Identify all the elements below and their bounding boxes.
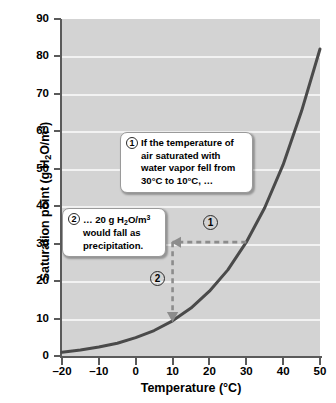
- x-axis-title: Temperature (°C): [62, 381, 320, 395]
- y-axis-tick-label: 50: [9, 163, 49, 175]
- callout-step-2-text: … 20 g H2O/m3 would fall as precipitatio…: [83, 213, 160, 252]
- y-axis-tick: [54, 18, 61, 20]
- gridline: [62, 94, 320, 96]
- step-marker-2: 2: [150, 271, 165, 286]
- y-axis-tick-label: 30: [9, 238, 49, 250]
- step-marker-1: 1: [203, 215, 218, 230]
- callout-step-1-badge: 1: [126, 137, 138, 150]
- callout-step-2-badge: 2: [68, 213, 80, 226]
- y-axis-tick-label: 90: [9, 13, 49, 25]
- callout-step-1-text: If the temperature of air saturated with…: [141, 137, 247, 188]
- y-axis-tick-label: 70: [9, 88, 49, 100]
- saturation-point-chart: Saturation point (g H2O/m3) 1 If the tem…: [0, 0, 336, 403]
- y-axis-tick-label: 60: [9, 125, 49, 137]
- x-axis-tick: [282, 358, 284, 365]
- y-axis-title-sub: 2: [43, 155, 53, 160]
- y-axis-tick: [54, 168, 61, 170]
- y-axis-tick-label: 20: [9, 275, 49, 287]
- callout-step-1: 1 If the temperature of air saturated wi…: [120, 132, 253, 193]
- x-axis-tick: [98, 358, 100, 365]
- y-axis-tick-label: 40: [9, 200, 49, 212]
- y-axis-tick: [54, 205, 61, 207]
- x-axis-tick: [61, 358, 63, 365]
- y-axis-line: [60, 19, 62, 358]
- gridline: [62, 319, 320, 321]
- y-axis-tick: [54, 243, 61, 245]
- x-axis-tick: [319, 358, 321, 365]
- x-axis-tick: [172, 358, 174, 365]
- y-axis-tick: [54, 355, 61, 357]
- y-axis-tick: [54, 318, 61, 320]
- y-axis-tick: [54, 93, 61, 95]
- y-axis-tick: [54, 130, 61, 132]
- y-axis-tick: [54, 55, 61, 57]
- x-axis-tick-label: 50: [298, 366, 336, 378]
- y-axis-tick-label: 10: [9, 313, 49, 325]
- y-axis-tick: [54, 280, 61, 282]
- x-axis-tick: [208, 358, 210, 365]
- x-axis-tick: [135, 358, 137, 365]
- y-axis-tick-label: 0: [9, 350, 49, 362]
- y-axis-tick-label: 80: [9, 50, 49, 62]
- y-axis-title-lead: Saturation point (g H: [38, 160, 52, 282]
- gridline: [62, 56, 320, 58]
- gridline: [62, 281, 320, 283]
- callout-step-2: 2 … 20 g H2O/m3 would fall as precipitat…: [62, 208, 166, 257]
- x-axis-tick: [245, 358, 247, 365]
